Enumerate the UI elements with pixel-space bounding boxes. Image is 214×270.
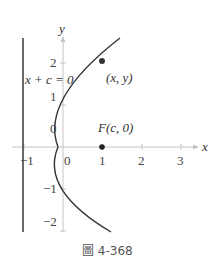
curve-point (99, 58, 105, 64)
y-axis-label: y (57, 21, 65, 36)
x-axis-label: x (201, 139, 208, 154)
y-tick-label: 0 (50, 121, 57, 136)
parabola-figure: y x −1 0 1 2 3 2 1 0 −1 −2 x + c = 0 (x,… (0, 0, 214, 270)
x-tick-label: 1 (99, 153, 106, 168)
point-label: (x, y) (106, 70, 133, 85)
directrix-label: x + c = 0 (24, 72, 74, 87)
y-tick-label: 2 (50, 55, 57, 70)
x-tick-label: 3 (177, 153, 184, 168)
y-tick-label: 1 (50, 89, 57, 104)
x-axis-arrow-icon (193, 145, 199, 150)
x-tick-label: −1 (20, 153, 34, 168)
y-tick-label: −1 (43, 181, 57, 196)
focus-point (99, 144, 105, 150)
parabola-curve (54, 38, 120, 232)
x-tick-label: 2 (138, 153, 145, 168)
y-tick-label: −2 (43, 214, 57, 229)
y-axis-arrow-icon (61, 36, 66, 42)
focus-label: F(c, 0) (97, 120, 133, 135)
x-tick-label: 0 (64, 153, 71, 168)
figure-caption: 圖 4-368 (82, 244, 133, 258)
